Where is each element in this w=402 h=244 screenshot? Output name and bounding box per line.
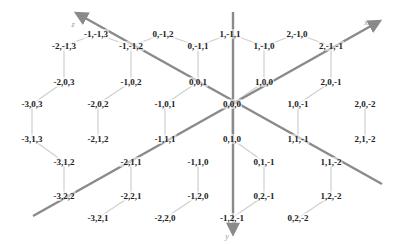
node-label: -1,0,2	[120, 77, 143, 87]
node-label: 1,2,-2	[320, 191, 343, 201]
node-label: 1,0,0	[254, 77, 274, 87]
y-axis-label: y	[225, 232, 229, 241]
x-axis-arrow	[33, 22, 378, 216]
node-label: 2,0,-2	[354, 99, 377, 109]
hex-coordinate-diagram: xyz-1,-1,30,-1,21,-1,12,-1,0-2,-1,3-1,-1…	[0, 0, 402, 244]
node-label: 2,1,-2	[354, 134, 377, 144]
node-label: -1,-1,2	[118, 41, 144, 51]
node-label: -2,1,1	[120, 157, 143, 167]
node-label: -2,2,1	[120, 191, 143, 201]
axes-layer	[0, 0, 402, 244]
node-label: -3,2,1	[87, 213, 110, 223]
node-label: -1,0,1	[154, 99, 177, 109]
node-label: -1,1,0	[187, 157, 210, 167]
node-label: -2,0,3	[53, 77, 76, 87]
node-label: -3,0,3	[21, 99, 44, 109]
x-axis-label: x	[364, 18, 368, 27]
node-label: 1,1,-1	[287, 134, 310, 144]
node-label: 0,-1,2	[152, 29, 175, 39]
node-label: -3,2,2	[53, 191, 76, 201]
node-label: -2,2,0	[154, 213, 177, 223]
node-label: -3,1,2	[53, 157, 76, 167]
node-label: 0,0,0	[222, 99, 242, 109]
node-label: -1,1,1	[154, 134, 177, 144]
node-label: 1,0,-1	[287, 99, 310, 109]
node-label: 0,2,-2	[287, 213, 310, 223]
node-label: 0,0,1	[188, 77, 208, 87]
node-label: -1,2,0	[187, 191, 210, 201]
node-label: 2,-1,0	[286, 29, 309, 39]
node-label: 0,1,-1	[253, 157, 276, 167]
node-label: 0,-1,1	[187, 41, 210, 51]
node-label: -2,0,2	[87, 99, 110, 109]
node-label: -2,1,2	[87, 134, 110, 144]
node-label: 0,2,-1	[253, 191, 276, 201]
node-label: 2,-1,-1	[318, 41, 344, 51]
node-label: 1,-1,1	[219, 29, 242, 39]
node-label: -1,-1,3	[83, 29, 109, 39]
node-label: 2,0,-1	[320, 77, 343, 87]
node-label: -3,1,3	[21, 134, 44, 144]
node-label: -2,-1,3	[51, 41, 77, 51]
node-label: 0,1,0	[222, 134, 242, 144]
z-axis-label: z	[71, 20, 74, 29]
node-label: -1,2,-1	[219, 213, 245, 223]
node-label: 1,-1,0	[253, 41, 276, 51]
node-label: 1,1,-2	[320, 157, 343, 167]
